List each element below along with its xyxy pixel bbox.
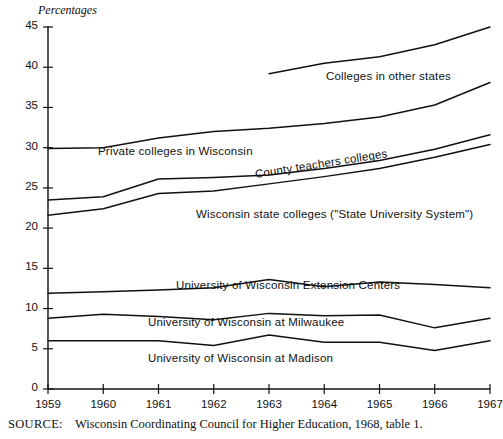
x-axis-tick-label: 1963 [246,398,292,410]
chart-plot-area [0,0,503,405]
y-axis-tick-label: 35 [12,99,38,111]
y-axis-tick-label: 5 [12,341,38,353]
series-label-state-colleges: Wisconsin state colleges ("State Univers… [196,208,473,220]
y-axis-tick-label: 25 [12,180,38,192]
y-axis-tick-label: 15 [12,260,38,272]
y-axis-tick-label: 40 [12,59,38,71]
x-axis-tick-label: 1961 [136,398,182,410]
y-axis-tick-label: 30 [12,140,38,152]
chart-container: Percentages 051015202530354045 195919601… [0,0,503,439]
y-axis-tick-label: 45 [12,19,38,31]
y-axis-tick-label: 20 [12,220,38,232]
series-line-0 [269,27,490,74]
series-label-private-colleges: Private colleges in Wisconsin [98,145,253,157]
source-text: Wisconsin Coordinating Council for Highe… [75,417,423,431]
x-axis-tick-label: 1960 [80,398,126,410]
x-axis-tick-label: 1966 [412,398,458,410]
x-axis-tick-label: 1967 [467,398,503,410]
source-label: SOURCE: [8,417,63,431]
x-axis-tick-label: 1959 [25,398,71,410]
series-label-milwaukee: University of Wisconsin at Milwaukee [148,316,344,328]
series-label-extension-centers: University of Wisconsin Extension Center… [176,279,400,291]
series-label-other-states: Colleges in other states [326,70,451,82]
y-axis-tick-label: 0 [12,381,38,393]
x-axis-tick-label: 1964 [301,398,347,410]
x-axis-tick-label: 1965 [357,398,403,410]
y-axis-tick-label: 10 [12,301,38,313]
x-axis-tick-label: 1962 [191,398,237,410]
series-line-1 [48,83,490,149]
series-line-6 [48,335,490,350]
series-label-madison: University of Wisconsin at Madison [148,352,333,364]
source-note: SOURCE:Wisconsin Coordinating Council fo… [8,417,423,432]
